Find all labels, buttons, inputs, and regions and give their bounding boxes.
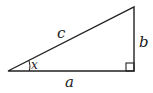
triangle-shape [8,7,134,71]
label-angle: x [31,58,38,72]
label-hypotenuse: c [57,24,66,42]
right-triangle-diagram: c b a x [0,0,153,93]
label-adjacent: a [65,73,74,91]
right-angle-marker [126,63,134,71]
label-opposite: b [139,33,149,51]
angle-arc [29,61,30,72]
